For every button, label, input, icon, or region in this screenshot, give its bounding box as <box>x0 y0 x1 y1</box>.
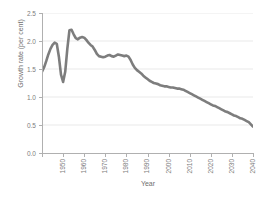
x-tick-label: 2020 <box>207 159 214 173</box>
x-axis-title: Year <box>42 180 254 187</box>
plot-area <box>42 13 253 153</box>
x-tick-mark <box>42 154 43 157</box>
x-tick-mark <box>190 154 191 157</box>
x-tick-mark <box>232 154 233 157</box>
x-tick-label: 1960 <box>81 159 88 173</box>
x-tick-label: 1990 <box>144 159 151 173</box>
growth-rate-line-chart: 0.00.51.01.52.02.5 195019601970198019902… <box>0 0 269 198</box>
y-tick-mark <box>39 125 42 126</box>
x-tick-label: 1970 <box>102 159 109 173</box>
x-tick-mark <box>63 154 64 157</box>
x-tick-label: 1980 <box>123 159 130 173</box>
y-tick-mark <box>39 13 42 14</box>
x-tick-mark <box>211 154 212 157</box>
x-tick-mark <box>169 154 170 157</box>
x-tick-mark <box>105 154 106 157</box>
x-tick-mark <box>126 154 127 157</box>
x-tick-mark <box>84 154 85 157</box>
series-line-world-population-growth-rate <box>42 30 253 127</box>
y-tick-mark <box>39 41 42 42</box>
y-tick-mark <box>39 69 42 70</box>
x-tick-label: 2030 <box>228 159 235 173</box>
chart-canvas <box>42 13 253 153</box>
y-tick-label: 0.5 <box>14 122 36 129</box>
y-axis-title: Growth rate (per cent) <box>17 8 24 100</box>
x-tick-label: 2040 <box>249 159 256 173</box>
y-tick-label: 0.0 <box>14 150 36 157</box>
y-tick-mark <box>39 97 42 98</box>
x-tick-mark <box>148 154 149 157</box>
x-tick-label: 2010 <box>186 159 193 173</box>
x-tick-mark <box>253 154 254 157</box>
y-axis-line <box>42 13 43 154</box>
x-tick-label: 1950 <box>59 159 66 173</box>
x-tick-label: 2000 <box>165 159 172 173</box>
